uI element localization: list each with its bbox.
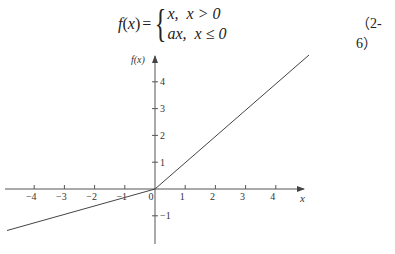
x-tick-label: 4 [270,191,275,202]
x-axis-label: x [299,192,305,204]
x-tick-label: −4 [26,191,37,202]
x-tick-label: −1 [116,191,127,202]
x-tick-label: 1 [180,191,185,202]
y-tick-label: −1 [160,210,171,221]
x-tick-label: 2 [210,191,215,202]
leaky-relu-plot: −4−3−2−101234 −11234 x f(x) [0,0,395,254]
y-tick-label: 4 [160,76,165,87]
y-tick-label: 1 [160,157,165,168]
y-tick-label: 2 [160,130,165,141]
x-ticks: −4−3−2−101234 [26,185,276,202]
x-tick-label: 0 [149,191,154,202]
x-tick-label: −2 [86,191,97,202]
y-axis-label: f(x) [131,54,146,66]
x-tick-label: 3 [240,191,245,202]
series-line [155,55,309,189]
x-tick-label: −3 [56,191,67,202]
y-tick-label: 3 [160,103,165,114]
